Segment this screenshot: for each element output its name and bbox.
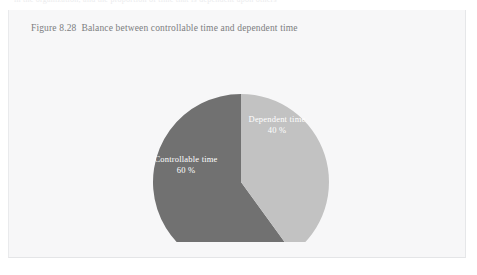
bleed-text: in the organization, and the proportion …: [14, 0, 277, 4]
figure-card: Figure 8.28Balance between controllable …: [8, 10, 466, 258]
pie-label-dependent-time: Dependent time 40 %: [231, 114, 323, 136]
pie-label-controllable-time: Controllable time 60 %: [135, 154, 237, 176]
page-top-text-bleed: in the organization, and the proportion …: [0, 0, 477, 9]
pie-chart-svg: [137, 42, 337, 242]
pie-label-controllable-time-value: 60 %: [135, 165, 237, 176]
pie-label-dependent-time-value: 40 %: [231, 125, 323, 136]
pie-label-dependent-time-name: Dependent time: [249, 114, 306, 124]
pie-label-controllable-time-name: Controllable time: [154, 154, 217, 164]
pie-chart: Dependent time 40 % Controllable time 60…: [9, 10, 467, 258]
